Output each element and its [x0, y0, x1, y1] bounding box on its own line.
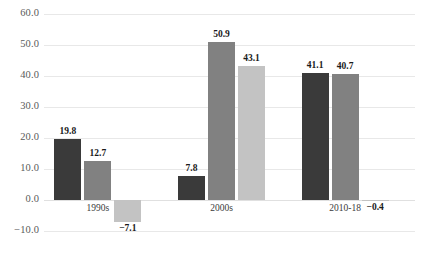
y-axis-tick-label: 40.0 — [0, 69, 39, 80]
y-axis-tick-label: 0.0 — [0, 193, 39, 204]
gridline — [44, 14, 415, 15]
gridline — [44, 231, 415, 232]
bar-value-label: 50.9 — [199, 29, 244, 39]
y-axis-tick-label: 30.0 — [0, 100, 39, 111]
bar-value-label: 40.7 — [323, 61, 368, 71]
bar-value-label: −7.1 — [105, 223, 150, 233]
y-axis-tick-label: 10.0 — [0, 162, 39, 173]
y-axis-tick-label: −10.0 — [0, 224, 39, 235]
category-label: 2000s — [164, 203, 279, 213]
bar-value-label: 12.7 — [75, 148, 120, 158]
y-axis-tick-label: 20.0 — [0, 131, 39, 142]
bar — [84, 161, 111, 200]
bar-value-label: 19.8 — [45, 126, 90, 136]
category-label: 2010-18 — [288, 203, 403, 213]
plot-area: 19.812.7−7.17.850.943.141.140.7−0.4 1990… — [44, 14, 415, 231]
category-label: 1990s — [40, 203, 155, 213]
bar — [362, 200, 389, 201]
bar — [208, 42, 235, 200]
bar-value-label: 43.1 — [229, 53, 274, 63]
gridline — [44, 200, 415, 201]
bar — [302, 73, 329, 200]
bar-chart: 60.050.040.030.020.010.00.0−10.0 19.812.… — [0, 0, 424, 259]
bar — [178, 176, 205, 200]
bar — [332, 74, 359, 200]
bar — [238, 66, 265, 200]
y-axis-tick-label: 50.0 — [0, 38, 39, 49]
bar-value-label: 7.8 — [169, 163, 214, 173]
y-axis-tick-label: 60.0 — [0, 7, 39, 18]
